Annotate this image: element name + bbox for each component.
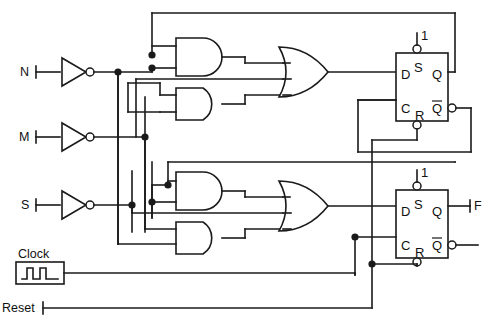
reset-label: Reset [2,301,35,315]
ff2-d-label: D [401,204,410,219]
reset-source: Reset [2,301,372,315]
or-gate-1 [279,47,395,97]
junction-ff2-reset [368,260,375,267]
and-gate-4 [118,222,283,254]
ff2-q-output [448,200,470,212]
input-m-label: M [19,130,29,144]
circuit-schematic: D C S R Q Q 1 [0,0,492,323]
ff1-set-bubble [413,45,421,53]
and-gate-2 [160,88,283,120]
flipflop-2: D C S R Q Q 1 [396,165,478,266]
input-s-label: S [21,198,29,212]
ff2-qbar-bubble [448,241,456,249]
flipflop-1: D C S R Q Q 1 [396,28,456,129]
schematic-canvas: D C S R Q Q 1 [0,0,492,323]
ff1-c-label: C [401,101,410,116]
ff2-s-label: S [414,197,423,212]
ff2-preset-label: 1 [421,165,428,180]
ff1-qbar-bubble [448,104,456,112]
crossing-wires [118,72,152,244]
ff2-c-label: C [401,238,410,253]
ff2-set-bubble [413,182,421,190]
junction-and3-in1 [164,181,171,188]
ff1-s-label: S [414,60,423,75]
and2-input-routing [128,83,160,112]
input-n-label: N [20,65,29,79]
and-gate-1 [152,38,283,76]
inverter-s [62,191,132,219]
ff1-reset-bubble [413,121,421,129]
junction-n-top [148,51,155,58]
clock-label: Clock [18,247,50,261]
input-net-s [36,199,60,211]
input-net-n [36,66,60,78]
ff2-qbar-label: Q [432,238,442,253]
ff1-d-label: D [401,67,410,82]
inverter-m [62,123,145,151]
input-net-m [36,131,60,143]
inverter-n [62,58,152,86]
or-gate-2 [279,181,396,231]
ff1-q-label: Q [432,67,442,82]
ff1-qbar-label: Q [432,101,442,116]
and-gate-3 [152,172,283,210]
ff2-q-label: Q [432,204,442,219]
ff2-reset-route [372,264,417,266]
ff1-preset-label: 1 [421,28,428,43]
output-f-label: F [474,199,482,213]
